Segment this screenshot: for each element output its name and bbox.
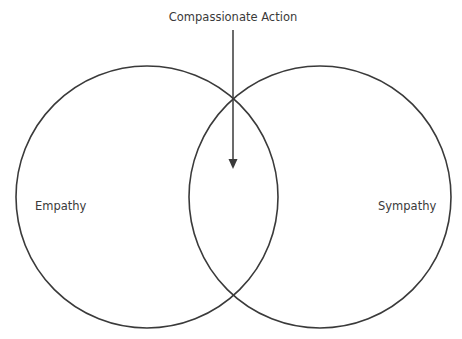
compassionate-action-label: Compassionate Action — [169, 10, 297, 24]
sympathy-circle — [189, 66, 451, 328]
empathy-label: Empathy — [35, 199, 87, 213]
empathy-circle — [16, 66, 278, 328]
compassionate-action-arrow — [229, 30, 238, 169]
arrow-down-icon — [229, 159, 238, 169]
venn-diagram: Compassionate Action Empathy Sympathy — [0, 0, 462, 339]
sympathy-label: Sympathy — [378, 199, 436, 213]
